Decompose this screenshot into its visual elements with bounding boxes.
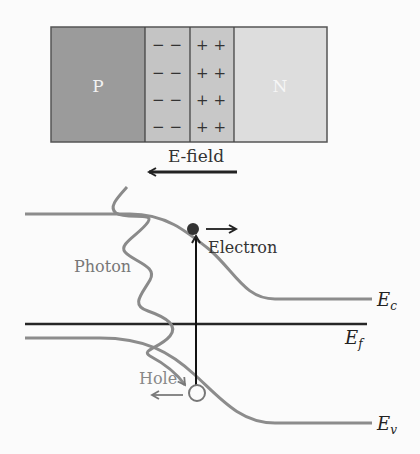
svg-text:− −: − −	[152, 36, 182, 54]
pn-junction-diagram: P N − − − − − − − − + + + + + + + + E-fi…	[0, 0, 420, 454]
svg-text:− −: − −	[152, 64, 182, 82]
svg-text:Ev: Ev	[376, 413, 397, 437]
hole-label: Hole	[139, 369, 177, 388]
n-region-label: N	[273, 76, 288, 96]
svg-text:+ +: + +	[196, 64, 226, 82]
svg-text:+ +: + +	[196, 118, 226, 136]
valence-band-curve	[25, 338, 372, 423]
svg-text:Ef: Ef	[344, 327, 365, 351]
efield-label: E-field	[168, 146, 224, 166]
svg-text:− −: − −	[152, 91, 182, 109]
hole-icon	[189, 385, 205, 401]
p-region-label: P	[92, 76, 103, 96]
svg-text:Ec: Ec	[376, 289, 397, 313]
ef-label: Ef	[344, 327, 365, 351]
ev-label: Ev	[376, 413, 397, 437]
svg-text:+ +: + +	[196, 91, 226, 109]
photon-label: Photon	[74, 257, 131, 276]
junction-block: P N − − − − − − − − + + + + + + + +	[51, 27, 327, 142]
svg-text:+ +: + +	[196, 36, 226, 54]
photon-wave	[113, 187, 185, 385]
electron-label: Electron	[208, 238, 277, 257]
svg-text:− −: − −	[152, 118, 182, 136]
electron-icon	[187, 223, 199, 235]
ec-label: Ec	[376, 289, 397, 313]
